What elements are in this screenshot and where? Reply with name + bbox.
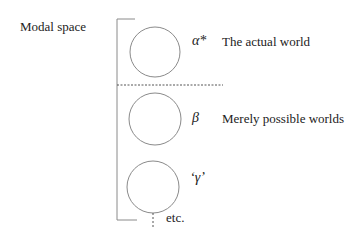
world-circle-alpha — [130, 27, 180, 77]
world-circle-gamma — [127, 161, 179, 213]
world-description-possible: Merely possible worlds — [222, 112, 344, 125]
modal-space-title: Modal space — [20, 20, 86, 33]
world-circle-beta — [129, 93, 181, 145]
world-symbol-alpha: α* — [192, 34, 206, 48]
world-symbol-beta: β — [192, 111, 199, 125]
world-symbol-gamma: ‘γ’ — [190, 171, 205, 185]
continuation-label: etc. — [166, 211, 184, 224]
world-description-actual: The actual world — [222, 35, 310, 48]
